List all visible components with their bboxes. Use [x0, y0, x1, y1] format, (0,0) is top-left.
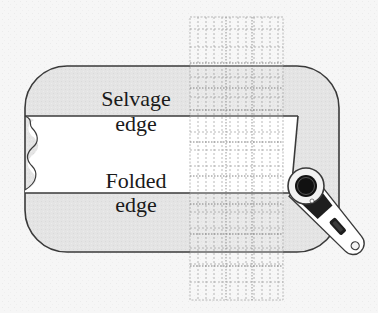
- diagram-canvas: [0, 0, 378, 313]
- blade-hub: [295, 175, 317, 197]
- folded-label-line2: edge: [66, 194, 206, 216]
- quilting-ruler: [190, 17, 283, 300]
- selvage-label-line2: edge: [66, 113, 206, 135]
- folded-label-line1: Folded: [66, 170, 206, 192]
- selvage-label-line1: Selvage: [66, 88, 206, 110]
- fabric-cutting-diagram: Selvage edge Folded edge: [0, 0, 378, 313]
